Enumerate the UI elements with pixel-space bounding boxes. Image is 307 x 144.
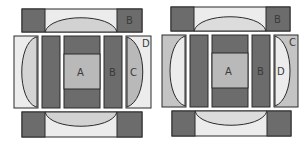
- left-column: [162, 35, 186, 107]
- label-b-strip: B: [109, 67, 116, 78]
- dark-strip-b: B: [252, 35, 270, 107]
- left-block: B A B C D: [14, 9, 151, 137]
- right-column: C D: [126, 36, 151, 108]
- bottom-strip: [22, 112, 142, 137]
- left-column: [14, 36, 38, 108]
- label-a: A: [225, 66, 232, 77]
- label-b-strip: B: [257, 66, 264, 77]
- bottom-strip: [172, 111, 291, 136]
- dark-strip-left: [190, 35, 208, 107]
- label-d: D: [277, 66, 285, 77]
- label-c: C: [289, 37, 296, 48]
- dark-strip-left: [42, 36, 60, 108]
- center-column: A: [212, 35, 248, 107]
- top-strip: B: [22, 9, 142, 32]
- top-strip: B: [171, 7, 290, 31]
- top-left-square: [22, 9, 45, 32]
- quilt-diagram: B A B C D: [0, 0, 307, 144]
- label-c: C: [130, 67, 137, 78]
- right-column: D C: [274, 35, 298, 107]
- center-column: A: [64, 36, 100, 108]
- label-b-top: B: [126, 15, 133, 26]
- right-block: B A B D C: [162, 7, 298, 136]
- label-d: D: [142, 38, 150, 49]
- label-b-top: B: [274, 14, 281, 25]
- dark-strip-b: B: [104, 36, 122, 108]
- label-a: A: [77, 67, 84, 78]
